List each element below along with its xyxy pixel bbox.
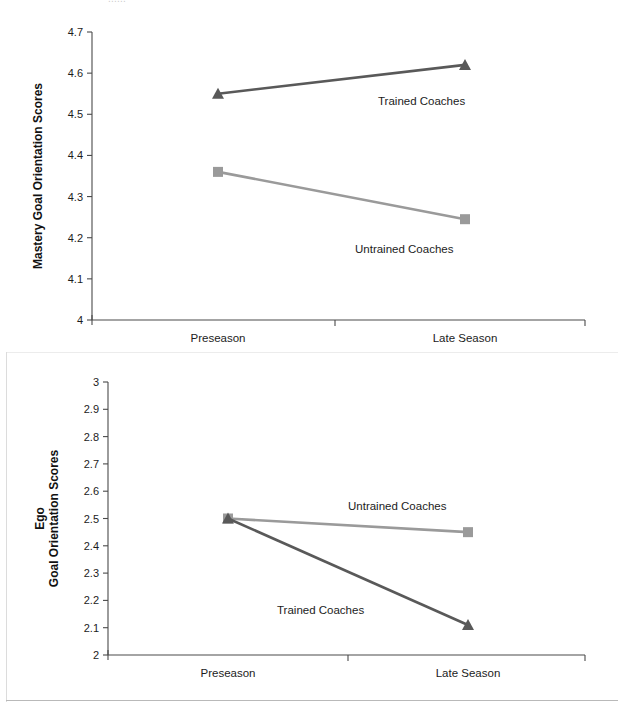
chart-ego-goal-orientation: 22.12.22.32.42.52.62.72.82.93EgoGoal Ori… [0, 362, 622, 702]
series-annotation-label: Trained Coaches [277, 604, 364, 616]
series-line [218, 65, 465, 94]
y-axis-tick-label: 4 [77, 314, 83, 326]
mastery-chart-svg: 44.14.24.34.44.54.64.7Mastery Goal Orien… [0, 10, 622, 355]
series-line [228, 519, 468, 533]
page-bottom-rule [6, 700, 618, 701]
y-axis-tick-label: 2.3 [84, 567, 99, 579]
series-line [218, 172, 465, 219]
x-axis-category-label: Late Season [436, 667, 501, 679]
y-axis-tick-label: 3 [93, 376, 99, 388]
y-axis-title: Mastery Goal Orientation Scores [31, 83, 45, 269]
y-axis-tick-label: 2 [93, 649, 99, 661]
y-axis-tick-label: 4.3 [68, 191, 83, 203]
y-axis-tick-label: 2.1 [84, 622, 99, 634]
data-point-marker-square [463, 527, 473, 537]
y-axis-tick-label: 2.9 [84, 403, 99, 415]
y-axis-tick-label: 4.2 [68, 232, 83, 244]
series-annotation-label: Untrained Coaches [355, 243, 454, 255]
y-axis-tick-label: 4.6 [68, 67, 83, 79]
y-axis-tick-label: 2.7 [84, 458, 99, 470]
clipped-header-text: ...... [108, 0, 126, 4]
x-axis-category-label: Preseason [201, 667, 256, 679]
y-axis-tick-label: 4.4 [68, 149, 83, 161]
y-axis-tick-label: 4.7 [68, 26, 83, 38]
y-axis-title: Goal Orientation Scores [47, 449, 61, 587]
data-point-marker-square [460, 214, 470, 224]
series-annotation-label: Untrained Coaches [348, 500, 447, 512]
ego-chart-svg: 22.12.22.32.42.52.62.72.82.93EgoGoal Ori… [0, 362, 622, 702]
figure-page: ...... 44.14.24.34.44.54.64.7Mastery Goa… [0, 0, 622, 708]
y-axis-tick-label: 2.6 [84, 485, 99, 497]
y-axis-tick-label: 4.5 [68, 108, 83, 120]
y-axis-tick-label: 4.1 [68, 273, 83, 285]
y-axis-tick-label: 2.8 [84, 431, 99, 443]
section-divider-top [6, 352, 618, 353]
x-axis-category-label: Preseason [191, 332, 246, 344]
y-axis-title: Ego [33, 507, 47, 530]
x-axis-category-label: Late Season [433, 332, 498, 344]
y-axis-tick-label: 2.2 [84, 594, 99, 606]
chart-mastery-goal-orientation: 44.14.24.34.44.54.64.7Mastery Goal Orien… [0, 10, 622, 355]
data-point-marker-square [213, 167, 223, 177]
y-axis-tick-label: 2.4 [84, 540, 99, 552]
y-axis-tick-label: 2.5 [84, 513, 99, 525]
series-annotation-label: Trained Coaches [378, 95, 465, 107]
